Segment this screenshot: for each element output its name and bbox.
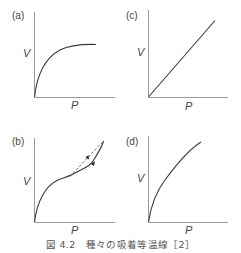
- adsorption-isotherm-figure: (a) V P (c) V P (b) V P (d) V P: [0, 0, 241, 253]
- panel-d-curve: [149, 142, 202, 222]
- panel-c-y-label: V: [137, 46, 146, 58]
- panel-b: (b) V P: [12, 136, 115, 236]
- panel-d-label: (d): [126, 136, 138, 147]
- panel-b-x-label: P: [71, 224, 79, 236]
- panel-d: (d) V P: [126, 136, 228, 236]
- panel-c-x-label: P: [185, 100, 193, 112]
- panel-a-curve: [35, 44, 97, 97]
- panel-d-y-label: V: [137, 172, 146, 184]
- panel-b-adsorption-curve: [35, 141, 104, 222]
- panel-b-y-label: V: [23, 175, 32, 187]
- panel-b-label: (b): [12, 136, 24, 147]
- panel-a-x-label: P: [71, 99, 79, 111]
- panel-b-desorption-branch: [70, 141, 104, 177]
- panel-c-label: (c): [126, 10, 138, 21]
- panel-a-y-label: V: [23, 47, 32, 59]
- panel-d-x-label: P: [185, 224, 193, 236]
- panel-c-line: [149, 21, 216, 98]
- panel-c: (c) V P: [126, 10, 228, 112]
- figure-caption: 図 4.2 種々の吸着等温線［2］: [0, 237, 241, 251]
- panel-a: (a) V P: [12, 10, 115, 111]
- panel-a-label: (a): [12, 10, 24, 21]
